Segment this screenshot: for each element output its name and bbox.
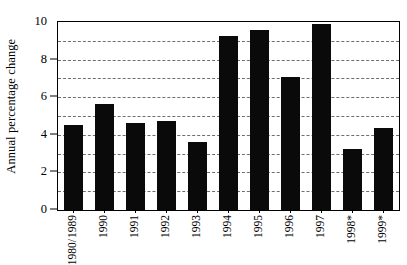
y-tick-label-6: 6 [41,90,47,103]
x-tick-label-line: 1996 [284,215,296,238]
x-tick-mark [352,209,353,213]
x-tick-mark [259,209,260,213]
x-tick-mark [166,209,167,213]
x-tick-label-line: 1997 [315,215,327,238]
bar [64,125,83,210]
x-tick-label-line: 1993 [191,215,203,238]
x-tick-label-line: 1992 [160,215,172,238]
y-tick-mark-0 [50,209,57,210]
bar [95,104,114,210]
x-tick-mark [104,209,105,213]
y-tick-label-4: 4 [41,128,47,141]
y-tick-label-2: 2 [41,165,47,178]
x-tick-mark [383,209,384,213]
bar [188,142,207,210]
x-tick-mark [135,209,136,213]
x-tick-label-line: 1998* [346,215,358,244]
x-tick-label-line: 1999* [377,215,389,244]
bar [126,123,145,210]
bar [281,77,300,210]
x-tick-mark [321,209,322,213]
bar [250,30,269,210]
bar [343,149,362,210]
bar [312,24,331,210]
x-tick-label-line: 1995 [253,215,265,238]
bar [219,36,238,210]
x-tick-label-line: 1990 [98,215,110,238]
y-tick-label-0: 0 [41,203,47,216]
bars-layer [58,22,399,210]
x-axis-ticks: 1980/19891990199119921993199419951996199… [57,209,398,262]
y-tick-label-10: 10 [35,15,48,28]
x-tick-label-line: 1989 [67,215,79,238]
y-tick-mark-2 [50,171,57,172]
x-tick-mark [290,209,291,213]
y-tick-mark-4 [50,133,57,134]
y-axis-ticks: 0246810 [0,0,57,262]
y-tick-mark-6 [50,96,57,97]
bar [374,128,393,210]
plot-area [57,21,400,211]
x-tick-mark [197,209,198,213]
y-tick-mark-8 [50,58,57,59]
x-tick-mark [73,209,74,213]
x-tick-label-line: 1991 [129,215,141,238]
x-tick-label-line: 1994 [222,215,234,238]
y-tick-label-8: 8 [41,52,47,65]
x-tick-label-line: 1980/ [67,239,79,265]
bar [157,121,176,210]
x-tick-mark [228,209,229,213]
